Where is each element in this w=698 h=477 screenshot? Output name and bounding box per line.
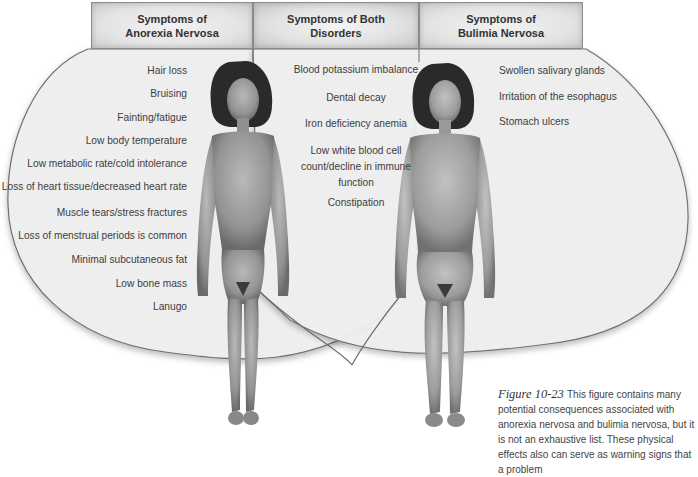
list-item: Minimal subcutaneous fat (71, 254, 187, 265)
list-item: Constipation (286, 195, 426, 211)
figure-caption-text: This figure contains many potential cons… (498, 389, 694, 475)
list-item: Dental decay (286, 90, 426, 106)
list-item: Muscle tears/stress fractures (57, 207, 187, 218)
anorexia-symptom-list: Hair loss Bruising Fainting/fatigue Low … (0, 0, 187, 431)
both-disorders-symptom-list: Blood potassium imbalance Dental decay I… (286, 0, 426, 431)
list-item: Low body temperature (86, 135, 187, 146)
list-item: Fainting/fatigue (117, 112, 187, 123)
list-item: Iron deficiency anemia (286, 116, 426, 132)
list-item: Low metabolic rate/cold intolerance (27, 158, 187, 169)
list-item: Bruising (150, 88, 187, 99)
list-item: Low bone mass (116, 278, 187, 289)
bulimia-symptom-list: Swollen salivary glands Irritation of th… (499, 0, 679, 431)
list-item: Blood potassium imbalance (286, 62, 426, 78)
list-item: Loss of heart tissue/decreased heart rat… (2, 181, 187, 192)
list-item: Low white blood cell count/decline in im… (300, 143, 412, 191)
figure-caption: Figure 10-23 This figure contains many p… (498, 387, 698, 477)
list-item: Hair loss (147, 65, 187, 76)
list-item: Swollen salivary glands (499, 65, 605, 76)
list-item: Loss of menstrual periods is common (18, 230, 187, 241)
list-item: Irritation of the esophagus (499, 91, 617, 102)
figure-label: Figure 10-23 (498, 387, 567, 401)
list-item: Lanugo (153, 301, 187, 312)
list-item: Stomach ulcers (499, 116, 569, 127)
